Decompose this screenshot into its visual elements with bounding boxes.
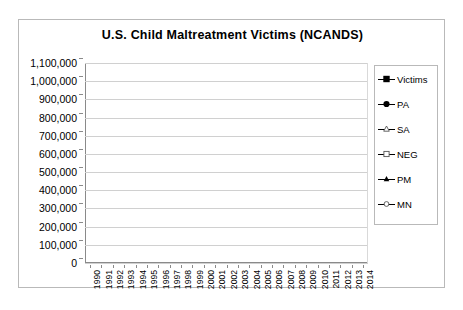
y-axis-tick-label: 1,000,000 — [30, 76, 77, 86]
x-axis-tick — [101, 265, 102, 268]
data-point-open-triangle — [384, 126, 390, 131]
chart-frame: U.S. Child Maltreatment Victims (NCANDS)… — [18, 19, 445, 288]
x-axis-tick — [352, 265, 353, 268]
x-axis-tick — [272, 265, 273, 268]
x-axis-tick — [124, 265, 125, 268]
x-axis-tick — [261, 265, 262, 268]
gridline — [85, 81, 368, 82]
x-axis-tick — [329, 265, 330, 268]
x-axis-tick — [170, 265, 171, 268]
gridline — [85, 136, 368, 137]
y-axis-tick — [79, 258, 83, 259]
chart-legend: VictimsPASANEGPMMN — [374, 65, 438, 225]
y-axis-tick-label: 700,000 — [39, 131, 77, 141]
plot-right-edge — [367, 63, 368, 263]
x-axis-tick — [192, 265, 193, 268]
legend-marker-open-square-icon — [378, 154, 395, 155]
x-axis-tick-label: 2003 — [241, 270, 250, 289]
x-axis-tick-label: 1993 — [127, 270, 136, 289]
chart-title: U.S. Child Maltreatment Victims (NCANDS) — [19, 28, 446, 42]
legend-label: PM — [397, 175, 411, 184]
chart-screenshot: U.S. Child Maltreatment Victims (NCANDS)… — [0, 0, 463, 310]
legend-item-sa[interactable]: SA — [378, 123, 410, 135]
y-axis-tick — [79, 203, 83, 204]
x-axis-tick-label: 2006 — [275, 270, 284, 289]
y-axis-tick-label: 1,100,000 — [30, 58, 77, 68]
data-point-filled-triangle — [384, 176, 390, 181]
x-axis-tick — [238, 265, 239, 268]
x-axis-tick-label: 2011 — [332, 270, 341, 288]
x-axis-tick-label: 1996 — [162, 270, 171, 289]
gridline — [85, 118, 368, 119]
gridline — [85, 172, 368, 173]
y-axis-tick-label: 500,000 — [39, 167, 77, 177]
x-axis-tick-label: 2012 — [344, 270, 353, 289]
y-axis-tick-label: 0 — [71, 258, 77, 268]
legend-label: NEG — [397, 150, 418, 159]
legend-item-neg[interactable]: NEG — [378, 148, 418, 160]
y-axis-tick-label: 200,000 — [39, 222, 77, 232]
y-axis-tick-label: 900,000 — [39, 94, 77, 104]
x-axis-tick-label: 1991 — [105, 270, 114, 289]
legend-item-pm[interactable]: PM — [378, 173, 411, 185]
x-axis-tick-label: 2001 — [218, 270, 227, 289]
x-axis-tick — [283, 265, 284, 268]
y-axis-tick-label: 100,000 — [39, 240, 77, 250]
x-axis-tick — [147, 265, 148, 268]
legend-label: MN — [397, 200, 412, 209]
x-axis-tick — [249, 265, 250, 268]
legend-marker-filled-square-icon — [378, 79, 395, 80]
x-axis-tick-label: 1994 — [139, 270, 148, 289]
x-axis-tick-label: 2002 — [230, 270, 239, 289]
x-axis-tick — [204, 265, 205, 268]
y-axis-tick — [79, 76, 83, 77]
y-axis-tick-label: 300,000 — [39, 203, 77, 213]
x-axis-tick-label: 2010 — [321, 270, 330, 289]
gridline — [85, 190, 368, 191]
y-axis-tick — [79, 185, 83, 186]
y-axis-tick — [79, 167, 83, 168]
x-axis-tick-label: 2005 — [264, 270, 273, 289]
legend-marker-open-circle-icon — [378, 204, 395, 205]
x-axis-tick-label: 2013 — [355, 270, 364, 289]
x-axis-labels: 1990199119921993199419951996199719981999… — [85, 265, 368, 309]
legend-marker-filled-circle-icon — [378, 104, 395, 105]
legend-marker-open-triangle-icon — [378, 129, 395, 130]
x-axis-tick-label: 1998 — [184, 270, 193, 289]
y-axis-tick — [79, 149, 83, 150]
x-axis-tick — [90, 265, 91, 268]
y-axis-tick — [79, 94, 83, 95]
x-axis-tick — [295, 265, 296, 268]
x-axis-tick-label: 1999 — [196, 270, 205, 289]
gridline — [85, 263, 368, 264]
x-axis-tick — [113, 265, 114, 268]
y-axis-tick — [79, 222, 83, 223]
x-axis-tick — [181, 265, 182, 268]
y-axis-tick — [79, 113, 83, 114]
gridline — [85, 154, 368, 155]
x-axis-tick — [227, 265, 228, 268]
x-axis-tick-label: 1992 — [116, 270, 125, 289]
y-axis-tick-label: 400,000 — [39, 185, 77, 195]
y-axis-tick — [79, 58, 83, 59]
legend-item-mn[interactable]: MN — [378, 198, 412, 210]
x-axis-tick — [363, 265, 364, 268]
plot-area — [85, 63, 368, 263]
legend-label: PA — [397, 100, 409, 109]
x-axis-tick — [158, 265, 159, 268]
data-point-open-circle — [384, 202, 389, 207]
y-axis-labels: 1,100,0001,000,000900,000800,000700,0006… — [19, 63, 83, 263]
x-axis-tick — [340, 265, 341, 268]
x-axis-tick — [136, 265, 137, 268]
data-point-open-square — [384, 151, 389, 156]
gridline — [85, 245, 368, 246]
y-axis-tick-label: 600,000 — [39, 149, 77, 159]
legend-item-pa[interactable]: PA — [378, 98, 409, 110]
x-axis-tick-label: 2000 — [207, 270, 216, 289]
y-axis-tick — [79, 240, 83, 241]
legend-item-victims[interactable]: Victims — [378, 73, 427, 85]
gridline — [85, 63, 368, 64]
gridlines — [85, 63, 368, 263]
gridline — [85, 227, 368, 228]
x-axis-tick-label: 1995 — [150, 270, 159, 289]
